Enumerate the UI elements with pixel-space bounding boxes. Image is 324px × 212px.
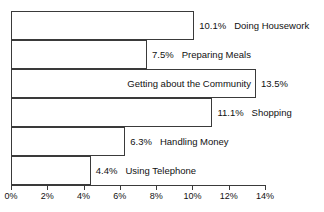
bar-chart: 10.1%Doing Housework7.5%Preparing MealsG… — [0, 0, 324, 212]
x-axis-tick — [192, 185, 193, 190]
x-axis-tick — [265, 185, 266, 190]
bar-category-label: Doing Housework — [226, 11, 309, 40]
bar-label-group: 4.4%Using Telephone — [96, 156, 196, 185]
bar-label-group: 7.5%Preparing Meals — [152, 40, 251, 69]
bar-category-label: Getting about the Community — [11, 69, 256, 98]
bar-value-text: 10.1% — [199, 11, 226, 40]
bar[interactable] — [11, 127, 125, 156]
x-axis-tick-label: 4% — [77, 191, 90, 201]
bar-row: Getting about the Community13.5% — [0, 69, 324, 98]
bar-value-text: 13.5% — [261, 69, 288, 98]
x-axis-tick — [47, 185, 48, 190]
bar-label-group: 6.3%Handling Money — [130, 127, 228, 156]
x-axis-tick-label: 8% — [150, 191, 163, 201]
bar-label-group: 10.1%Doing Housework — [199, 11, 309, 40]
x-axis-tick-label: 12% — [220, 191, 238, 201]
bar-category-label: Preparing Meals — [174, 40, 251, 69]
x-axis-tick — [11, 185, 12, 190]
x-axis-tick — [120, 185, 121, 190]
bar-row: 4.4%Using Telephone — [0, 156, 324, 185]
bar-value-text: 6.3% — [130, 127, 152, 156]
bar[interactable] — [11, 156, 91, 185]
x-axis-tick — [229, 185, 230, 190]
bar-category-label: Shopping — [244, 98, 292, 127]
bar-row: 11.1%Shopping — [0, 98, 324, 127]
x-axis-line — [11, 185, 265, 186]
bar-value-label: 13.5% — [261, 69, 288, 98]
bar-category-label: Using Telephone — [117, 156, 196, 185]
bar-row: 10.1%Doing Housework — [0, 11, 324, 40]
bar-row: 6.3%Handling Money — [0, 127, 324, 156]
bar[interactable] — [11, 11, 194, 40]
x-axis-tick-label: 2% — [41, 191, 54, 201]
x-axis-tick — [84, 185, 85, 190]
bar-value-text: 4.4% — [96, 156, 118, 185]
bar[interactable] — [11, 98, 212, 127]
x-axis-tick-label: 0% — [4, 191, 17, 201]
x-axis-tick-label: 6% — [113, 191, 126, 201]
bar-value-text: 11.1% — [217, 98, 243, 127]
x-axis-tick — [156, 185, 157, 190]
x-axis-tick-label: 10% — [183, 191, 201, 201]
bar-label-group: 11.1%Shopping — [217, 98, 291, 127]
bar-row: 7.5%Preparing Meals — [0, 40, 324, 69]
plot-area: 10.1%Doing Housework7.5%Preparing MealsG… — [0, 0, 324, 212]
bar-value-text: 7.5% — [152, 40, 174, 69]
bar[interactable] — [11, 40, 147, 69]
x-axis-tick-label: 14% — [256, 191, 274, 201]
bar-category-label: Handling Money — [152, 127, 229, 156]
